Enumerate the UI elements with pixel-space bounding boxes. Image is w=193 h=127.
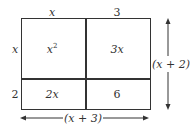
height-dimension-text: (x + 2) [152, 58, 190, 71]
width-dimension-text: (x + 3) [64, 112, 102, 125]
height-dimension-label: (x + 2) [152, 58, 190, 71]
width-dimension-label: (x + 3) [63, 113, 103, 124]
area-model-diagram: x 3 x 2 x2 3x 2x 6 (x + 2) (x + 3) [0, 0, 193, 127]
